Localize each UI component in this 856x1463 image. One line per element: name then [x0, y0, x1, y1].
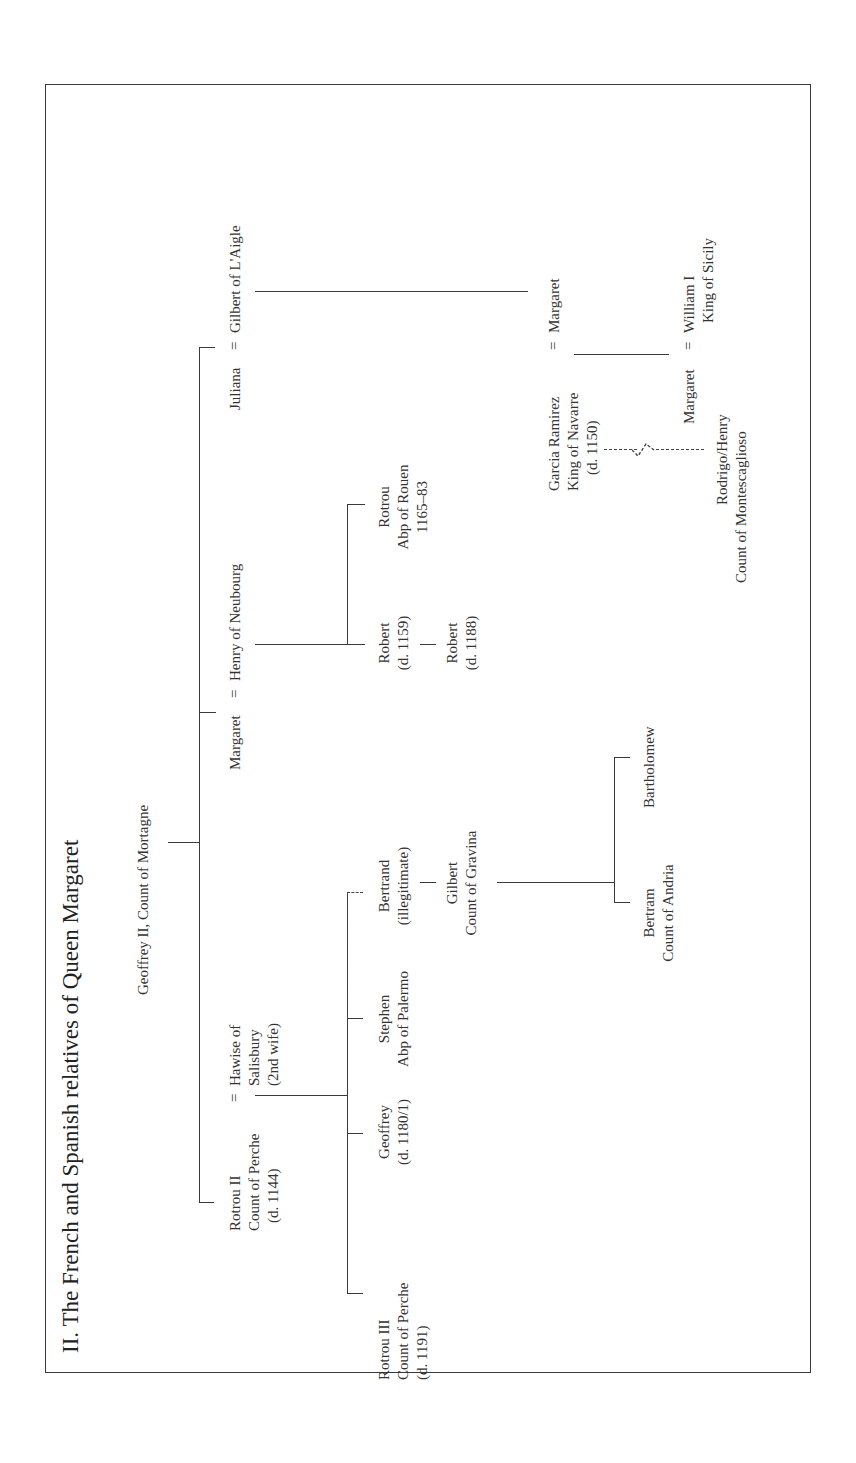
geoffrey-descent-line: [168, 842, 199, 843]
rotrou-ii-descent-line: [255, 1095, 347, 1096]
marriage-sign: =: [226, 690, 243, 698]
marriage-sign: =: [545, 342, 562, 350]
person-robert-1188: Robert (d. 1188): [443, 593, 481, 693]
break-mark-icon: [632, 438, 656, 460]
person-bartholomew: Bartholomew: [640, 726, 659, 808]
person-rodrigo-henry: Rodrigo/Henry Count of Montescaglioso: [713, 414, 751, 583]
person-garcia-ramirez: Garcia Ramirez King of Navarre (d. 1150): [545, 393, 602, 491]
person-juliana: Juliana: [226, 368, 245, 411]
stub-margaret: [199, 712, 216, 713]
stub-rotrou-rouen: [347, 504, 365, 505]
person-robert-1159: Robert (d. 1159): [375, 593, 413, 693]
person-margaret-queen: Margaret: [680, 369, 699, 424]
person-geoffrey: Geoffrey (d. 1180/1): [375, 1077, 413, 1187]
person-bertram: Bertram Count of Andria: [640, 853, 678, 973]
stub-juliana: [199, 347, 215, 348]
person-margaret-laigle: Margaret: [545, 278, 564, 333]
stub-bartholomew: [614, 757, 630, 758]
garcia-margaret-descent-line: [574, 354, 669, 355]
stub-bertrand: [347, 892, 363, 893]
siblings-bar-gravina: [614, 758, 615, 903]
marriage-sign: =: [226, 342, 243, 350]
marriage-sign: =: [680, 342, 697, 350]
person-gilbert-gravina: Gilbert Count of Gravina: [443, 818, 481, 948]
stub-rotrou-iii: [347, 1293, 363, 1294]
gilbert-descent-line: [497, 882, 614, 883]
robert-descent-line: [420, 644, 436, 645]
person-william-i: William I King of Sicily: [680, 238, 718, 333]
person-stephen: Stephen Abp of Palermo: [375, 963, 413, 1075]
person-rotrou-ii: Rotrou II Count of Perche (d. 1144): [226, 1134, 283, 1231]
siblings-bar-gen1: [199, 348, 200, 1203]
chart-title: II. The French and Spanish relatives of …: [58, 840, 84, 1353]
person-rotrou-iii: Rotrou III Count of Perche (d. 1191): [375, 1283, 432, 1380]
stub-bertram: [614, 902, 630, 903]
person-rotrou-rouen: Rotrou Abp of Rouen 1165–83: [375, 447, 432, 567]
person-henry-neubourg: Henry of Neubourg: [226, 564, 245, 681]
juliana-descent-line: [255, 291, 528, 292]
stub-rotrou-ii: [199, 1202, 214, 1203]
person-margaret-neubourg: Margaret: [226, 715, 245, 770]
stub-robert: [347, 644, 365, 645]
marriage-sign: =: [226, 1094, 243, 1102]
stub-geoffrey: [347, 1133, 363, 1134]
person-gilbert-laigle: Gilbert of L'Aigle: [226, 225, 245, 333]
bertrand-descent-line: [420, 882, 436, 883]
stub-stephen: [347, 1018, 363, 1019]
dashed-illegitimate-line: [347, 893, 348, 1019]
margaret-neubourg-descent-line: [255, 644, 347, 645]
siblings-bar-neubourg: [347, 505, 348, 645]
dashed-line-lower: [656, 449, 704, 450]
person-hawise: Hawise of Salisbury (2nd wife): [226, 1023, 283, 1086]
genealogy-chart: II. The French and Spanish relatives of …: [0, 0, 856, 1463]
person-bertrand: Bertrand (illegitimate): [375, 841, 413, 931]
person-geoffrey-ii: Geoffrey II, Count of Mortagne: [134, 805, 153, 995]
